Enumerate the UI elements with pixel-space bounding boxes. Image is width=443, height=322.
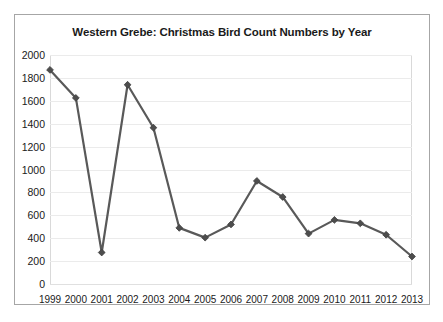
y-tick-label-600: 600 [27,209,45,221]
plot-area: 2000180016001400120010008006004002000 19… [50,55,412,284]
x-tick-label-2003: 2003 [142,294,164,305]
chart-title: Western Grebe: Christmas Bird Count Numb… [15,26,429,38]
x-tick-label-2001: 2001 [91,294,113,305]
y-tick-label-1000: 1000 [22,164,45,176]
x-tick-label-2004: 2004 [168,294,190,305]
x-tick-label-2008: 2008 [272,294,294,305]
x-tick-label-2011: 2011 [350,294,372,305]
y-tick-label-1200: 1200 [22,141,45,153]
x-tick-label-2013: 2013 [401,294,423,305]
y-tick-label-1400: 1400 [22,118,45,130]
x-tick-label-2005: 2005 [194,294,216,305]
x-tick-label-2000: 2000 [65,294,87,305]
x-tick-label-2002: 2002 [116,294,138,305]
x-tick-label-2006: 2006 [220,294,242,305]
y-tick-label-1800: 1800 [22,72,45,84]
data-point-2004[interactable] [176,224,183,231]
chart-figure: Western Grebe: Christmas Bird Count Numb… [14,14,430,305]
data-point-2011[interactable] [357,220,364,227]
x-tick-label-2010: 2010 [323,294,345,305]
x-tick-label-2007: 2007 [246,294,268,305]
y-tick-label-200: 200 [27,255,45,267]
data-line [50,70,412,257]
y-tick-label-2000: 2000 [22,49,45,61]
y-tick-label-800: 800 [27,186,45,198]
y-tick-label-1600: 1600 [22,95,45,107]
x-tick-label-2009: 2009 [297,294,319,305]
y-tick-label-400: 400 [27,232,45,244]
x-tick-label-2012: 2012 [375,294,397,305]
data-series-layer [50,55,412,284]
x-tick-label-1999: 1999 [39,294,61,305]
y-tick-label-0: 0 [39,278,45,290]
data-point-2001[interactable] [98,249,105,256]
gridline-0 [50,284,412,285]
